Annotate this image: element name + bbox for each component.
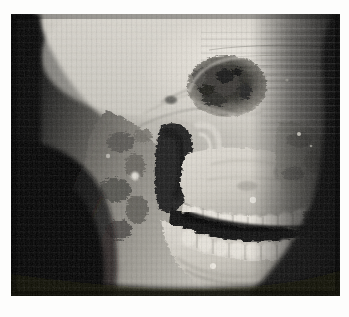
ct-volume-rendering-plate — [11, 14, 340, 296]
film-grain-overlay — [11, 14, 340, 296]
skull-volume-rendering — [11, 14, 340, 296]
figure-page: human skull lateral oblique (right three… — [0, 0, 349, 317]
